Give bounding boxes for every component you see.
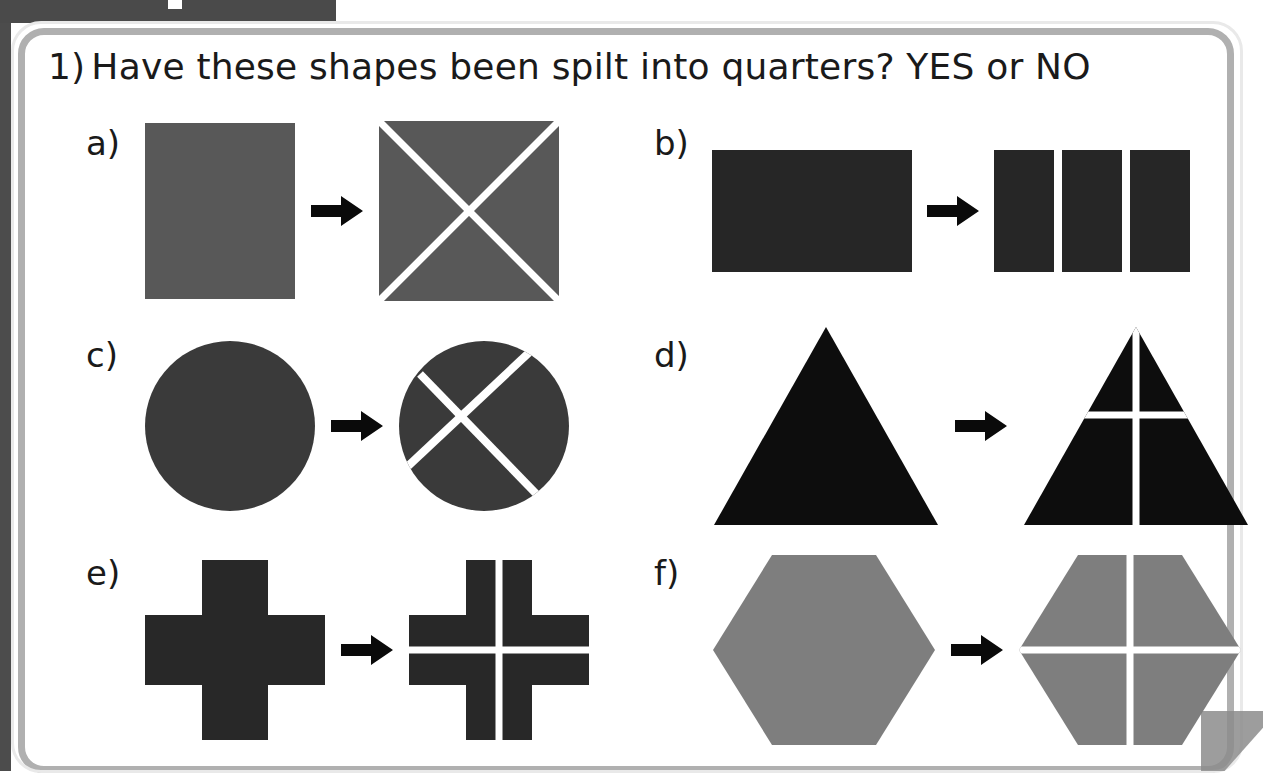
item-label-c: c) (86, 335, 142, 375)
figure-b-after (992, 148, 1192, 274)
item-label-b: b) (654, 123, 710, 163)
question-line: 1)Have these shapes been spilt into quar… (48, 46, 1091, 87)
figure-pair-c (142, 338, 572, 514)
right-arrow-icon (953, 409, 1009, 443)
right-arrow-icon (309, 194, 365, 228)
problem-row-1: a) (0, 105, 1263, 317)
figure-d-after (1020, 323, 1252, 529)
right-arrow-icon (925, 194, 981, 228)
problem-row-2: c) (0, 317, 1263, 535)
figure-a-after (376, 118, 562, 304)
figure-f-before (710, 552, 938, 748)
figure-c-after (396, 338, 572, 514)
item-label-e: e) (86, 553, 142, 593)
question-text: Have these shapes been spilt into quarte… (91, 46, 1090, 87)
problem-item-a: a) (0, 105, 640, 317)
figure-e-before (142, 557, 328, 743)
figure-pair-e (142, 557, 592, 743)
figure-b-before (710, 148, 914, 274)
figure-pair-f (710, 552, 1244, 748)
problem-item-f: f) (640, 535, 1263, 765)
figure-pair-a (142, 118, 562, 304)
problem-item-d: d) (640, 317, 1263, 535)
problem-row-3: e) (0, 535, 1263, 765)
item-label-a: a) (86, 123, 142, 163)
figure-c-before (142, 338, 318, 514)
arrow-d (942, 409, 1020, 443)
right-arrow-icon (329, 409, 385, 443)
arrow-e (328, 633, 406, 667)
item-label-d: d) (654, 335, 710, 375)
problem-item-e: e) (0, 535, 640, 765)
item-label-f: f) (654, 553, 710, 593)
arrow-a (298, 194, 376, 228)
arrow-f (938, 633, 1016, 667)
figure-a-before (142, 120, 298, 302)
figure-pair-d (710, 323, 1252, 529)
figure-d-before (710, 323, 942, 529)
right-arrow-icon (949, 633, 1005, 667)
question-number: 1) (48, 46, 85, 87)
arrow-c (318, 409, 396, 443)
problem-item-b: b) (640, 105, 1263, 317)
figure-pair-b (710, 148, 1192, 274)
problem-item-c: c) (0, 317, 640, 535)
right-arrow-icon (339, 633, 395, 667)
arrow-b (914, 194, 992, 228)
figure-f-after (1016, 552, 1244, 748)
figure-e-after (406, 557, 592, 743)
problem-grid: a) (0, 105, 1263, 765)
